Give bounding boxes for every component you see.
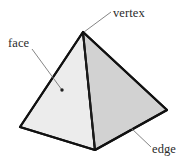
face-point-marker — [60, 88, 63, 91]
label-vertex: vertex — [113, 6, 145, 20]
label-face: face — [8, 36, 30, 50]
figure-canvas: vertex face edge — [0, 0, 187, 163]
label-edge: edge — [152, 142, 176, 156]
pyramid-diagram: vertex face edge — [0, 0, 187, 163]
